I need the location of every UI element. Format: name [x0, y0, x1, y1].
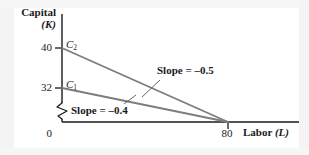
y-tick-label-40: 40 — [26, 42, 52, 54]
curve-label-c1-subscript: 1 — [73, 83, 77, 92]
y-axis-title-main: Capital — [21, 6, 56, 18]
x-axis-title-main: Labor — [243, 126, 272, 138]
x-axis-title: Labor (L) — [243, 127, 289, 139]
x-tick-label-80: 80 — [214, 128, 240, 140]
isocost-lines-figure: Capital (K) Labor (L) 40 32 0 80 C2 C1 S… — [0, 0, 309, 155]
origin-label: 0 — [26, 128, 52, 140]
slope-annotation-c1: Slope = –0.4 — [71, 105, 128, 117]
y-tick-label-32: 32 — [26, 82, 52, 94]
curve-label-c1: C1 — [66, 79, 77, 91]
slope-c2-leader — [142, 80, 160, 97]
y-axis-break-zigzag — [57, 103, 67, 119]
curve-label-c2-subscript: 2 — [73, 43, 77, 52]
x-axis-title-variable: (L) — [275, 126, 289, 138]
y-axis-title-variable: (K) — [41, 18, 56, 30]
curve-label-c2: C2 — [66, 39, 77, 51]
y-axis-title: Capital (K) — [6, 7, 56, 31]
slope-annotation-c2: Slope = –0.5 — [157, 65, 214, 77]
